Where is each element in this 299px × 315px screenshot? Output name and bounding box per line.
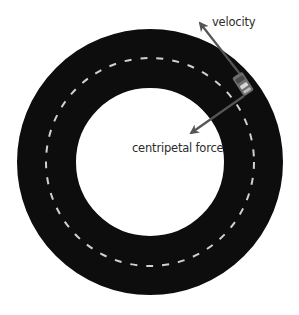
centripetal-force-label: centripetal force (132, 141, 223, 155)
velocity-label: velocity (212, 15, 255, 29)
race-track (47, 59, 254, 266)
circular-motion-diagram (0, 0, 299, 315)
